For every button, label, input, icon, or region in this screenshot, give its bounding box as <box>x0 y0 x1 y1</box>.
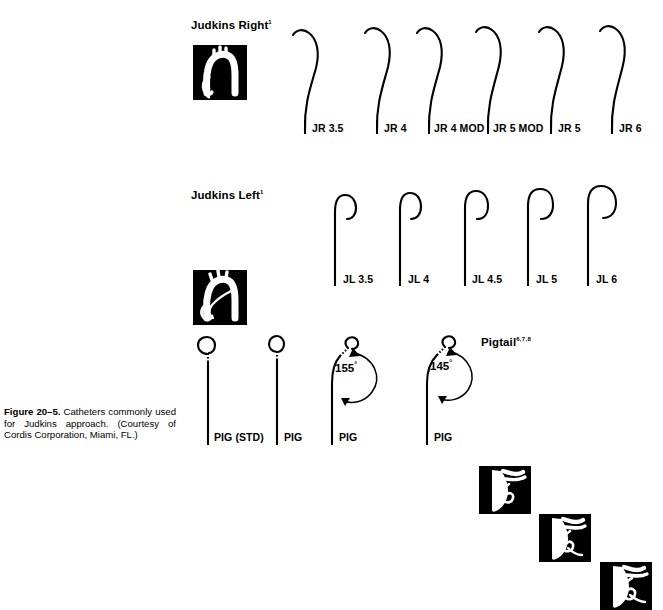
jl-catheter-4-shape <box>400 193 421 284</box>
jr-catheter-5-shape <box>539 27 564 131</box>
angle-arc-145-arrowhead-top <box>446 347 457 356</box>
pigtail-155-loop <box>345 337 358 349</box>
section-title-judkins-left: Judkins Left1 <box>191 189 264 201</box>
catheter-label-jl-4-5: JL 4.5 <box>472 273 502 285</box>
jr-catheter-5-mod-shape <box>476 27 501 131</box>
jr-catheter-4-shape <box>365 28 390 131</box>
pigtail-155-dotted-segment <box>340 348 348 356</box>
catheter-label-pig-155: PIG <box>339 431 357 443</box>
jl-catheter-6-shape <box>588 186 616 284</box>
catheter-label-jr-5: JR 5 <box>558 122 581 134</box>
section-title-judkins-left-text: Judkins Left <box>191 189 260 201</box>
section-title-judkins-right-superscript: 1 <box>268 19 272 25</box>
catheter-label-pig-2: PIG <box>284 431 302 443</box>
figure-caption: Figure 20–5. Catheters commonly used for… <box>4 406 176 441</box>
jr-catheter-6-shape <box>600 26 625 131</box>
angle-arc-155 <box>341 348 377 406</box>
angle-value-155: 155 <box>335 362 354 374</box>
jl-catheter-5-shape <box>528 189 553 284</box>
aortic-arch-right-coronary-icon <box>193 45 247 100</box>
section-title-pigtail-text: Pigtail <box>481 336 516 348</box>
angle-arc-155-curve <box>344 352 377 402</box>
pigtail-145-dotted-segment <box>437 347 445 355</box>
section-title-pigtail-superscript: 6,7,8 <box>516 336 531 342</box>
figure-number: Figure 20–5. <box>4 406 60 417</box>
catheter-label-jr-3-5: JR 3.5 <box>312 122 344 134</box>
jr-catheter-4-mod-shape <box>417 28 442 131</box>
pigtail-catheter-shapes <box>198 336 455 443</box>
angle-arc-145 <box>438 347 472 404</box>
section-title-judkins-right: Judkins Right1 <box>191 19 272 31</box>
catheter-label-jl-4: JL 4 <box>408 273 429 285</box>
catheter-label-jl-3-5: JL 3.5 <box>343 273 373 285</box>
catheter-label-pig-std: PIG (STD) <box>214 431 264 443</box>
section-title-pigtail: Pigtail6,7,8 <box>481 336 531 348</box>
pigtail-2-loop <box>269 336 284 352</box>
angle-unit-155: ° <box>354 361 357 368</box>
jr-catheter-shapes <box>293 26 625 131</box>
catheter-label-pig-145: PIG <box>434 431 452 443</box>
catheter-label-jr-5-mod: JR 5 MOD <box>493 122 543 134</box>
jr-catheter-3-5-shape <box>293 30 318 131</box>
catheter-label-jr-4-mod: JR 4 MOD <box>434 122 484 134</box>
ventriculogram-icon-3 <box>600 562 652 610</box>
catheter-label-jr-4: JR 4 <box>384 122 407 134</box>
jl-catheter-4-5-shape <box>465 191 488 284</box>
ventriculogram-icon-1 <box>479 466 531 514</box>
section-title-judkins-right-text: Judkins Right <box>191 19 268 31</box>
angle-unit-145: ° <box>449 359 452 366</box>
angle-label-155: 155° <box>335 361 357 374</box>
jl-catheter-shapes <box>335 186 616 284</box>
catheter-label-jl-6: JL 6 <box>596 273 617 285</box>
catheter-label-jr-6: JR 6 <box>619 122 642 134</box>
pigtail-std-loop <box>198 337 215 354</box>
catheter-label-jl-5: JL 5 <box>536 273 557 285</box>
jl-catheter-3-5-shape <box>335 195 356 284</box>
angle-arc-155-arrowhead-top <box>349 348 360 357</box>
pigtail-145-loop <box>442 336 455 348</box>
angle-label-145: 145° <box>430 359 452 372</box>
angle-value-145: 145 <box>430 360 449 372</box>
section-title-judkins-left-superscript: 1 <box>260 189 264 195</box>
aortic-arch-left-coronary-icon <box>193 270 247 325</box>
angle-arc-155-arrowhead-bottom <box>341 398 350 406</box>
angle-arc-145-arrowhead-bottom <box>438 396 447 404</box>
ventriculogram-icon-2 <box>539 514 591 562</box>
